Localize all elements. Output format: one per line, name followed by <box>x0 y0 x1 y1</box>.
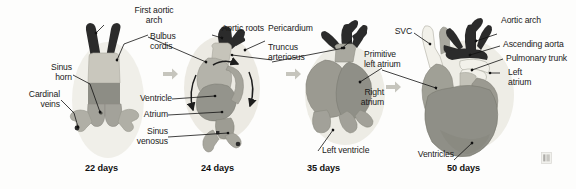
label-left-ventricle: Left ventricle <box>322 146 392 156</box>
label-first-aortic-arch: First aortic arch <box>125 6 183 25</box>
label-aortic-arch: Aortic arch <box>501 16 571 26</box>
label-atrium: Atrium <box>126 110 168 120</box>
label-cardinal-veins: Cardinal veins <box>8 90 60 109</box>
embryonic-heart-development-figure: First aortic arch Bulbus cordis Sinus ho… <box>0 0 576 189</box>
label-ventricle: Ventricle <box>126 94 172 104</box>
label-primitive-left-atrium: Primitive left atrium <box>364 50 426 69</box>
label-truncus-arteriosus: Truncus arteriosus <box>268 43 330 62</box>
heart-50-days-artwork <box>422 18 514 157</box>
stage-label-50-days: 50 days <box>447 163 480 173</box>
label-aortic-roots: Aortic roots <box>196 24 264 34</box>
arrow-35-to-50 <box>386 82 401 93</box>
label-sinus-venosus: Sinus venosus <box>126 127 168 146</box>
label-left-atrium: Left atrium <box>508 68 548 87</box>
label-right-atrium: Right atrium <box>346 88 384 107</box>
arrow-22-to-24 <box>163 69 178 80</box>
label-pulmonary-trunk: Pulmonary trunk <box>506 54 576 64</box>
heart-35-days-artwork <box>305 20 385 145</box>
label-svc: SVC <box>386 27 412 37</box>
stage-label-22-days: 22 days <box>85 163 118 173</box>
stage-label-35-days: 35 days <box>307 163 340 173</box>
label-sinus-horn: Sinus horn <box>28 63 72 82</box>
publisher-watermark-icon <box>541 152 552 164</box>
label-pericardium: Pericardium <box>268 24 330 34</box>
label-bulbus-cordis: Bulbus cordis <box>150 32 190 51</box>
label-ascending-aorta: Ascending aorta <box>503 40 576 50</box>
stage-label-24-days: 24 days <box>201 163 234 173</box>
arrow-24-to-35 <box>286 69 301 80</box>
label-ventricles: Ventricles <box>406 150 454 160</box>
